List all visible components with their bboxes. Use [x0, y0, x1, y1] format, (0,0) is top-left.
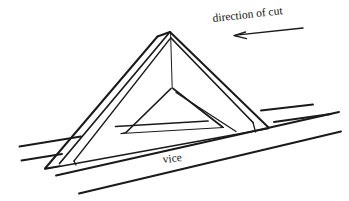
workpiece-right-outer-edge: [170, 32, 269, 128]
vice-label: vice: [162, 151, 182, 165]
workpiece-group: [45, 32, 269, 169]
workpiece-apex-vertical-edge: [171, 34, 173, 89]
vice-group: [20, 105, 342, 194]
vice-right-upper-jaw: [261, 105, 313, 111]
vice-cut-diagram: direction of cut vice: [0, 0, 349, 201]
workpiece-left-outer-edge: [45, 37, 158, 169]
cut-direction-arrow: [234, 28, 303, 39]
workpiece-crossbar-top-edge: [116, 121, 209, 127]
workpiece-inner-right-thickness-edge: [176, 93, 236, 132]
diagram-canvas: direction of cut vice: [0, 0, 349, 201]
direction-of-cut-label: direction of cut: [212, 4, 284, 24]
vice-left-upper-jaw: [20, 137, 82, 147]
workpiece-left-inner-edge: [74, 38, 171, 162]
arrow-shaft: [236, 28, 303, 35]
workpiece-right-inner-edge: [172, 39, 254, 123]
workpiece-crossbar-bottom-edge: [121, 128, 224, 134]
vice-left-lower-jaw: [22, 154, 63, 161]
workpiece-left-ridge-edge: [60, 33, 170, 164]
